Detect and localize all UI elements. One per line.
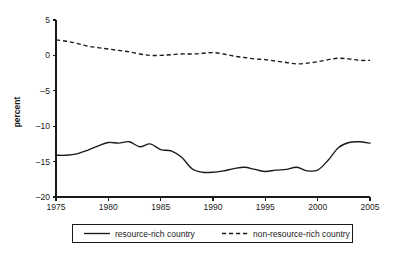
x-tick-label: 1990 — [204, 202, 223, 212]
y-tick-label: –10 — [36, 121, 50, 131]
chart-axes — [56, 20, 370, 197]
y-tick-label: –15 — [36, 157, 50, 167]
series-line-solid — [56, 142, 370, 173]
x-tick-label: 1975 — [47, 202, 66, 212]
y-tick-label: 0 — [45, 50, 50, 60]
y-axis-title: percent — [12, 96, 22, 127]
line-chart: 50–5–10–15–20 19751980198519901995200020… — [0, 0, 406, 256]
x-tick-label: 2000 — [308, 202, 327, 212]
chart-legend: resource-rich countrynon-resource-rich c… — [73, 225, 353, 243]
x-tick-label: 1980 — [99, 202, 118, 212]
y-tick-label: 5 — [45, 15, 50, 25]
legend-label: resource-rich country — [115, 229, 196, 239]
x-axis-ticks: 1975198019851990199520002005 — [47, 197, 380, 212]
chart-figure: 50–5–10–15–20 19751980198519901995200020… — [0, 0, 406, 256]
legend-label: non-resource-rich country — [253, 229, 351, 239]
x-tick-label: 1985 — [151, 202, 170, 212]
x-tick-label: 2005 — [361, 202, 380, 212]
series-line-dashed — [56, 40, 370, 64]
y-tick-label: –5 — [41, 86, 51, 96]
x-tick-label: 1995 — [256, 202, 275, 212]
y-axis-ticks: 50–5–10–15–20 — [36, 15, 56, 202]
y-tick-label: –20 — [36, 192, 50, 202]
chart-series-group — [56, 40, 370, 173]
